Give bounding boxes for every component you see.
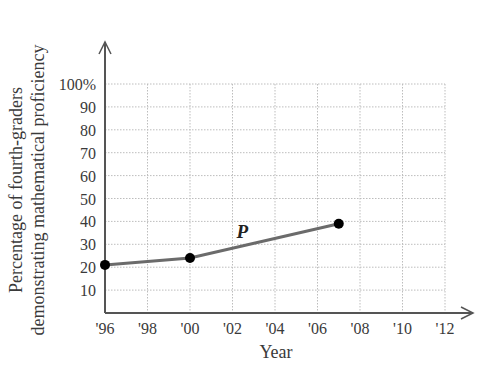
y-tick-labels: 102030405060708090100% [59, 76, 96, 299]
y-tick-label: 70 [80, 145, 96, 162]
x-tick-label: '96 [96, 320, 115, 337]
x-tick-labels: '96'98'00'02'04'06'08'10'12 [96, 320, 455, 337]
x-tick-label: '06 [308, 320, 327, 337]
y-tick-label: 10 [80, 282, 96, 299]
grid-lines [105, 84, 445, 313]
x-tick-label: '12 [436, 320, 455, 337]
y-tick-label: 40 [80, 213, 96, 230]
y-tick-label: 60 [80, 168, 96, 185]
data-point-marker [185, 253, 195, 263]
y-tick-label: 80 [80, 122, 96, 139]
y-axis-title-line-2: demonstrating mathematical proficiency [28, 45, 48, 336]
y-axis-title-line-1: Percentage of fourth-graders [6, 87, 26, 293]
series-label-p: P [236, 221, 249, 242]
x-tick-label: '02 [223, 320, 242, 337]
y-tick-label: 100% [59, 76, 96, 93]
y-tick-label: 50 [80, 191, 96, 208]
data-point-marker [100, 260, 110, 270]
y-tick-label: 20 [80, 259, 96, 276]
x-tick-label: '10 [393, 320, 412, 337]
x-tick-label: '08 [351, 320, 370, 337]
y-tick-label: 30 [80, 236, 96, 253]
line-chart: 102030405060708090100% '96'98'00'02'04'0… [0, 0, 477, 370]
x-tick-label: '00 [181, 320, 200, 337]
data-point-marker [334, 219, 344, 229]
x-tick-label: '98 [138, 320, 157, 337]
y-axis-title: Percentage of fourth-graders demonstrati… [6, 45, 48, 336]
x-axis-title: Year [259, 342, 292, 362]
x-tick-label: '04 [266, 320, 285, 337]
y-tick-label: 90 [80, 99, 96, 116]
